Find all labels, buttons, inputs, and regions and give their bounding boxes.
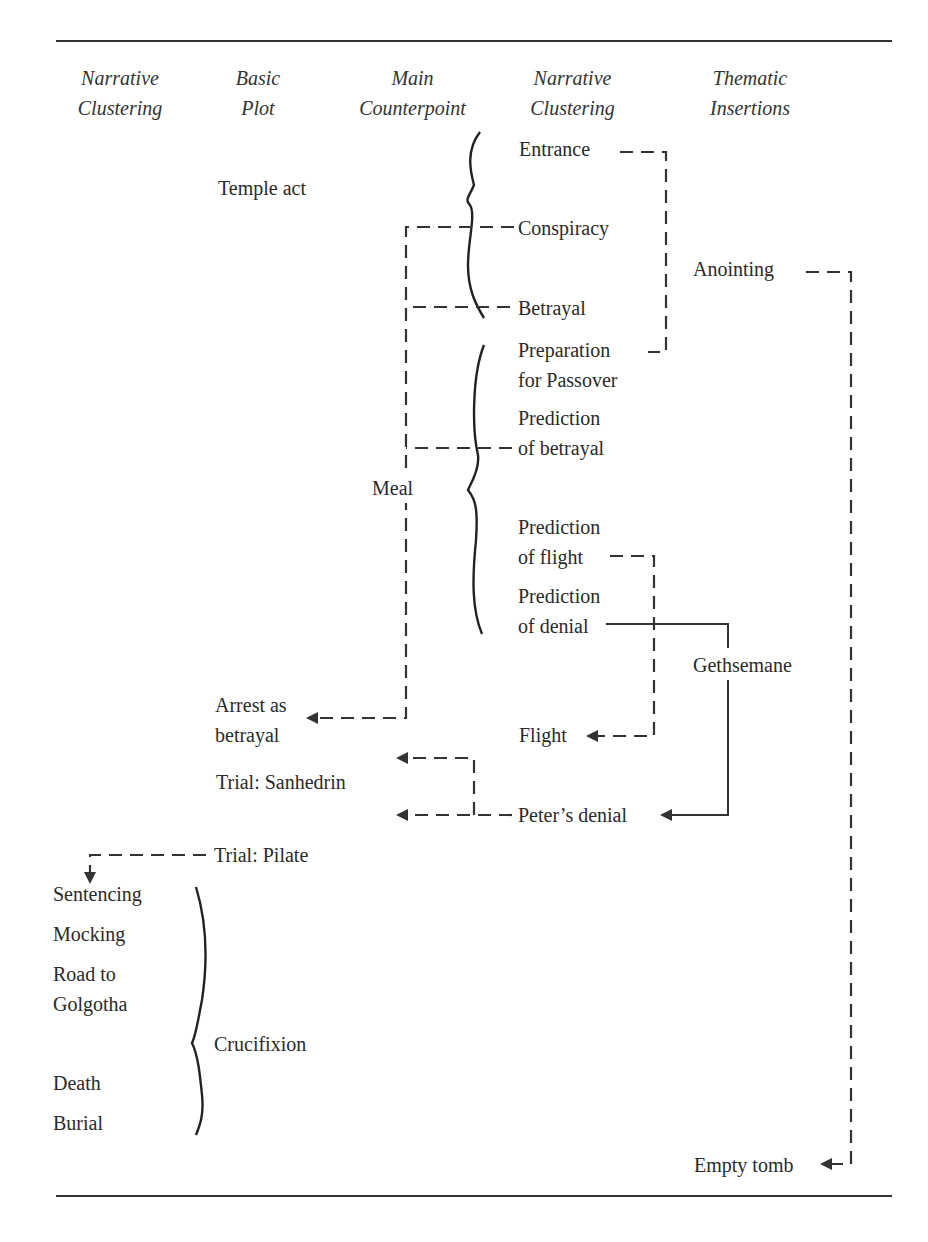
connector-prediction-flight [598,556,654,736]
label-line2: of flight [518,542,600,572]
label-flight: Flight [519,720,567,750]
label-burial: Burial [53,1108,103,1138]
label-death: Death [53,1068,101,1098]
label-line2: of betrayal [518,433,604,463]
label-sentencing: Sentencing [53,879,142,909]
connector-layer [0,0,928,1242]
connector-pilate-sentencing [90,855,206,872]
connector-entrance-preparation [620,152,666,352]
label-road-to-golgotha: Road to Golgotha [53,959,127,1019]
label-line2: betrayal [215,720,287,750]
arrowhead-flight [586,730,598,742]
brace-crucifixion [192,887,205,1135]
label-prediction-of-denial: Prediction of denial [518,581,600,641]
label-preparation-for-passover: Preparation for Passover [518,335,617,395]
label-line2: for Passover [518,365,617,395]
arrowhead-arrest [306,712,318,724]
label-line1: Preparation [518,335,617,365]
label-line1: Arrest as [215,690,287,720]
label-line1: Prediction [518,403,604,433]
label-gethsemane: Gethsemane [693,650,792,680]
label-anointing: Anointing [693,254,774,284]
label-line1: Prediction [518,512,600,542]
label-prediction-of-betrayal: Prediction of betrayal [518,403,604,463]
brace-meal [468,345,484,634]
label-line1: Prediction [518,581,600,611]
label-empty-tomb: Empty tomb [694,1150,793,1180]
arrowhead-sanhedrin-upper [396,752,408,764]
label-entrance: Entrance [519,134,590,164]
label-betrayal: Betrayal [518,293,586,323]
arrowhead-sanhedrin-lower [396,809,408,821]
label-crucifixion: Crucifixion [214,1029,306,1059]
label-arrest-as-betrayal: Arrest as betrayal [215,690,287,750]
label-trial-pilate: Trial: Pilate [214,840,308,870]
arrowhead-empty-tomb [820,1158,832,1170]
label-line1: Road to [53,959,127,989]
label-prediction-of-flight: Prediction of flight [518,512,600,572]
label-trial-sanhedrin: Trial: Sanhedrin [216,767,346,797]
label-conspiracy: Conspiracy [518,213,609,243]
label-temple-act: Temple act [218,173,306,203]
connector-peter-sanhedrin-upper [408,758,474,815]
connector-prediction-denial [606,624,728,648]
connector-gethsemane-peter [672,680,728,815]
arrowhead-peters-denial [660,809,672,821]
label-meal: Meal [372,473,413,503]
label-peters-denial: Peter’s denial [518,800,627,830]
label-mocking: Mocking [53,919,125,949]
label-line2: Golgotha [53,989,127,1019]
connector-anointing-tomb [806,272,851,1164]
connector-conspiracy-arrest [318,227,514,718]
brace-upper [467,132,484,318]
label-line2: of denial [518,611,600,641]
